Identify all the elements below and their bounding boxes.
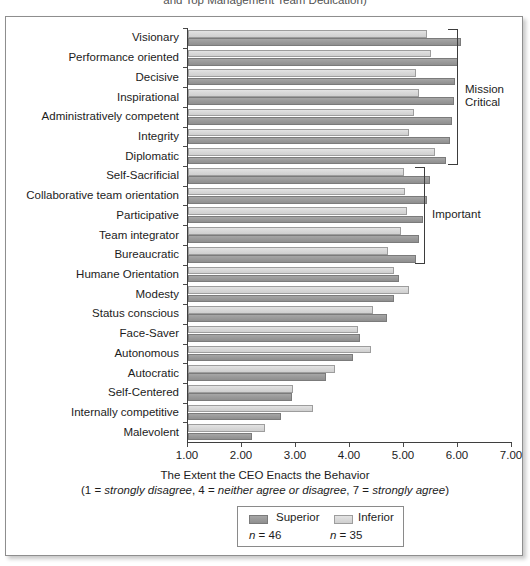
bar-superior — [188, 413, 281, 421]
bar-inferior — [188, 188, 405, 196]
x-axis-tick-label: 4.00 — [327, 449, 371, 461]
category-label: Team integrator — [6, 229, 187, 241]
chart-plot-area: VisionaryPerformance orientedDecisiveIns… — [6, 17, 524, 557]
y-axis-tick — [183, 344, 187, 345]
y-axis-tick — [183, 245, 187, 246]
category-label: Malevolent — [6, 426, 187, 438]
bar-inferior — [188, 129, 409, 137]
bar-superior — [188, 275, 399, 283]
y-axis-tick — [183, 225, 187, 226]
category-label: Performance oriented — [6, 51, 187, 63]
category-label: Autocratic — [6, 367, 187, 379]
category-label: Internally competitive — [6, 406, 187, 418]
category-label: Autonomous — [6, 347, 187, 359]
y-axis-tick — [183, 186, 187, 187]
x-axis-tick — [403, 443, 404, 447]
y-axis-tick — [183, 107, 187, 108]
category-label: Visionary — [6, 31, 187, 43]
y-axis-tick — [183, 324, 187, 325]
y-axis-tick — [183, 403, 187, 404]
x-axis-tick — [511, 443, 512, 447]
category-label: Humane Orientation — [6, 268, 187, 280]
bar-inferior — [188, 267, 394, 275]
bar-superior — [188, 97, 454, 105]
category-label: Modesty — [6, 288, 187, 300]
y-axis-tick — [183, 205, 187, 206]
bar-inferior — [188, 424, 265, 432]
figure-caption-tail: and Top Management Team Dedication) — [0, 0, 530, 15]
bar-inferior — [188, 50, 431, 58]
category-label: Status conscious — [6, 307, 187, 319]
bar-superior — [188, 38, 461, 46]
category-label: Decisive — [6, 71, 187, 83]
chart-legend: SuperiorInferiorn = 46n = 35 — [237, 506, 404, 547]
bar-inferior — [188, 247, 388, 255]
x-axis-tick-label: 5.00 — [381, 449, 425, 461]
y-axis-tick — [183, 265, 187, 266]
legend-n-superior: n = 46 — [249, 529, 281, 541]
x-axis-scale-note: (1 = strongly disagree, 4 = neither agre… — [6, 484, 524, 496]
bar-superior — [188, 373, 326, 381]
y-axis-tick — [183, 383, 187, 384]
y-axis-tick — [183, 422, 187, 423]
bar-inferior — [188, 69, 416, 77]
bar-superior — [188, 393, 292, 401]
y-axis-tick — [183, 48, 187, 49]
x-axis-tick-label: 6.00 — [435, 449, 479, 461]
x-axis-tick — [349, 443, 350, 447]
bar-inferior — [188, 109, 414, 117]
bar-inferior — [188, 346, 371, 354]
x-axis-tick — [295, 443, 296, 447]
bar-inferior — [188, 227, 401, 235]
bar-inferior — [188, 306, 373, 314]
y-axis-tick — [183, 363, 187, 364]
y-axis-tick — [183, 284, 187, 285]
bar-inferior — [188, 148, 435, 156]
category-label: Self-Sacrificial — [6, 169, 187, 181]
legend-swatch-superior — [249, 515, 268, 524]
figure-frame: VisionaryPerformance orientedDecisiveIns… — [5, 16, 523, 556]
bar-inferior — [188, 326, 358, 334]
bar-inferior — [188, 286, 409, 294]
bar-superior — [188, 334, 360, 342]
x-axis-tick — [457, 443, 458, 447]
legend-n-inferior: n = 35 — [330, 529, 362, 541]
bar-superior — [188, 157, 446, 165]
bar-superior — [188, 295, 394, 303]
bar-superior — [188, 196, 427, 204]
bar-superior — [188, 117, 452, 125]
category-label: Diplomatic — [6, 150, 187, 162]
y-axis-tick — [183, 304, 187, 305]
bar-inferior — [188, 385, 293, 393]
bar-superior — [188, 78, 455, 86]
y-axis-tick — [183, 28, 187, 29]
figure-caption-text: and Top Management Team Dedication) — [0, 0, 530, 6]
legend-label-inferior: Inferior — [358, 511, 394, 523]
x-axis-tick — [187, 443, 188, 447]
bar-superior — [188, 235, 419, 243]
x-axis-tick-label: 7.00 — [489, 449, 530, 461]
category-label: Integrity — [6, 130, 187, 142]
category-label: Inspirational — [6, 91, 187, 103]
category-label: Administratively competent — [6, 110, 187, 122]
y-axis-tick — [183, 127, 187, 128]
x-axis-tick — [241, 443, 242, 447]
x-axis-title: The Extent the CEO Enacts the Behavior — [6, 469, 524, 481]
group-bracket-label: MissionCritical — [465, 83, 504, 109]
x-axis-tick-label: 2.00 — [219, 449, 263, 461]
category-label: Bureaucratic — [6, 248, 187, 260]
bar-inferior — [188, 365, 335, 373]
bar-superior — [188, 58, 458, 66]
y-axis-tick — [183, 67, 187, 68]
x-axis-tick-label: 1.00 — [165, 449, 209, 461]
category-label: Self-Centered — [6, 386, 187, 398]
group-bracket — [415, 167, 425, 264]
legend-swatch-inferior — [334, 515, 353, 524]
bar-inferior — [188, 405, 313, 413]
bar-superior — [188, 433, 252, 441]
bar-inferior — [188, 168, 404, 176]
group-bracket — [448, 29, 458, 165]
y-axis-tick — [183, 87, 187, 88]
bar-superior — [188, 255, 416, 263]
bar-superior — [188, 216, 423, 224]
